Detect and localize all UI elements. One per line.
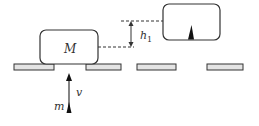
label-h: h1 [140, 29, 152, 44]
diagram-canvas: M h1 v m [0, 0, 259, 126]
platform-4 [207, 64, 243, 70]
arrowhead-up-icon [66, 73, 72, 81]
small-mass-m [67, 102, 72, 113]
arrowhead-down-icon [129, 42, 134, 47]
platform-2 [86, 64, 121, 70]
label-M: M [63, 42, 77, 56]
platform-1 [14, 64, 54, 70]
arrowhead-up-icon [129, 21, 134, 26]
label-v: v [76, 86, 83, 99]
platform-3 [137, 64, 176, 70]
label-m: m [54, 100, 64, 113]
